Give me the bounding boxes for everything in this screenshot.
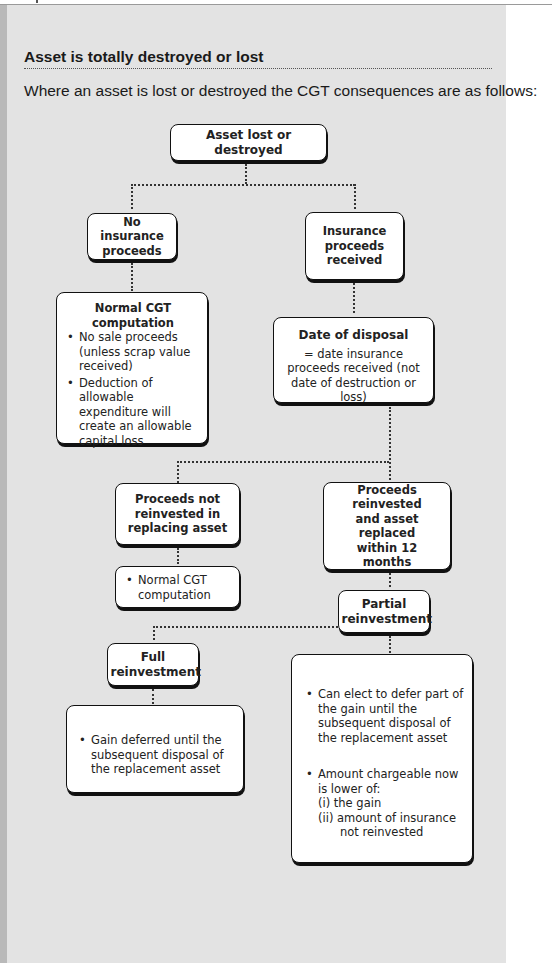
- not-reinvested-bullets: Normal CGT computation: [124, 573, 233, 602]
- connector: [389, 636, 391, 653]
- box-not-reinvested: Proceeds not reinvested in replacing ass…: [115, 483, 240, 545]
- partial-result-bullets: Can elect to defer part of the gain unti…: [304, 687, 464, 796]
- bullet-item: Normal CGT computation: [138, 573, 233, 602]
- connector: [353, 283, 355, 313]
- box-partial-label: Partial reinvestment: [342, 597, 427, 626]
- box-no-insurance: No insurance proceeds: [87, 213, 177, 260]
- box-date-text: = date insurance proceeds received (not …: [280, 347, 427, 405]
- option-item: (i) the gain: [318, 796, 464, 811]
- top-tick: [36, 0, 38, 3]
- normal-cgt-bullets: No sale proceeds (unless scrap value rec…: [65, 330, 201, 448]
- box-partial-result: Can elect to defer part of the gain unti…: [291, 654, 473, 863]
- partial-options: (i) the gain (ii) amount of insurance no…: [304, 796, 464, 840]
- box-not-reinvested-result: Normal CGT computation: [115, 566, 240, 608]
- bullet-item: Amount chargeable now is lower of:: [318, 767, 464, 796]
- intro-text: Where an asset is lost or destroyed the …: [24, 82, 504, 100]
- option-item: (ii) amount of insurance not reinvested: [318, 811, 464, 840]
- panel-left-stripe: [0, 5, 7, 963]
- box-not-reinvested-label: Proceeds not reinvested in replacing ass…: [128, 492, 228, 536]
- box-normal-cgt-title: Normal CGT computation: [65, 301, 201, 330]
- connector: [177, 461, 179, 483]
- connector: [177, 461, 389, 463]
- box-no-insurance-label: No insurance proceeds: [92, 215, 172, 259]
- full-result-bullets: Gain deferred until the subsequent dispo…: [77, 733, 235, 777]
- connector: [153, 626, 338, 628]
- connector: [153, 626, 155, 640]
- box-insurance-received: Insurance proceeds received: [305, 212, 404, 280]
- connector: [177, 548, 179, 564]
- box-full-result: Gain deferred until the subsequent dispo…: [66, 705, 244, 793]
- box-asset-lost-label: Asset lost or destroyed: [171, 128, 326, 157]
- box-asset-lost: Asset lost or destroyed: [170, 124, 327, 161]
- box-partial-reinvestment: Partial reinvestment: [338, 590, 430, 633]
- section-heading: Asset is totally destroyed or lost: [24, 48, 492, 69]
- bullet-item: Gain deferred until the subsequent dispo…: [91, 733, 235, 777]
- connector: [131, 184, 355, 186]
- bullet-item: Can elect to defer part of the gain unti…: [318, 687, 464, 745]
- box-date-title: Date of disposal: [280, 328, 427, 343]
- box-insurance-received-label: Insurance proceeds received: [320, 224, 390, 268]
- connector: [389, 573, 391, 587]
- box-full-reinvestment: Full reinvestment: [107, 643, 199, 686]
- box-reinvested-label: Proceeds reinvested and asset replaced w…: [342, 483, 432, 570]
- connector: [131, 263, 133, 291]
- box-full-label: Full reinvestment: [111, 650, 196, 679]
- connector: [152, 689, 154, 704]
- connector: [245, 164, 247, 184]
- connector: [131, 184, 133, 209]
- connector: [354, 184, 356, 209]
- bullet-item: No sale proceeds (unless scrap value rec…: [79, 330, 201, 374]
- bullet-item: Deduction of allowable expenditure will …: [79, 376, 201, 449]
- box-reinvested: Proceeds reinvested and asset replaced w…: [323, 482, 451, 570]
- box-date-of-disposal: Date of disposal = date insurance procee…: [273, 317, 434, 403]
- box-normal-cgt: Normal CGT computation No sale proceeds …: [56, 292, 208, 444]
